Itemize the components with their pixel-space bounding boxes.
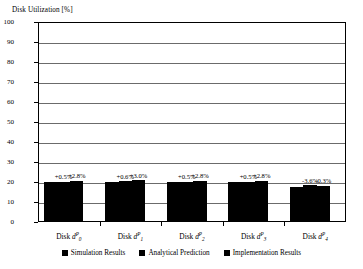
bar-group (290, 22, 330, 222)
bar (255, 181, 268, 222)
legend-label: Analytical Prediction (148, 249, 209, 257)
legend-item: Simulation Results (62, 249, 126, 257)
y-tick-label: 0 (0, 219, 14, 226)
bar-group (228, 22, 268, 222)
chart-legend: Simulation ResultsAnalytical PredictionI… (0, 249, 363, 257)
y-tick-label: 20 (0, 179, 14, 186)
bar-slot (193, 22, 206, 222)
y-tick-label: 10 (0, 199, 14, 206)
x-axis-labels: Disk dP0Disk dP1Disk dP2Disk dP3Disk dP4 (38, 227, 346, 247)
bar (132, 180, 145, 222)
bar-data-label: -0.3% (309, 177, 337, 184)
bar-slot (167, 22, 180, 222)
bar-group (44, 22, 84, 222)
y-tick-label: 60 (0, 99, 14, 106)
y-tick-label: 40 (0, 139, 14, 146)
bar-slot (303, 22, 316, 222)
bar (317, 186, 330, 222)
bar-data-label: +2.8% (186, 172, 214, 179)
bar-slot (105, 22, 118, 222)
bar-slot (317, 22, 330, 222)
x-tick-mark (284, 222, 285, 226)
bar-data-label: +2.8% (248, 172, 276, 179)
x-tick-mark (223, 222, 224, 226)
bar (290, 187, 303, 222)
y-tick-mark (34, 222, 38, 223)
bar-data-label: +2.8% (63, 172, 91, 179)
x-tick-label: Disk dP1 (100, 231, 162, 243)
bar-slot (242, 22, 255, 222)
bar-slot (44, 22, 57, 222)
bar-slot (119, 22, 132, 222)
bar-slot (228, 22, 241, 222)
bar-data-label: +3.0% (124, 172, 152, 179)
bar (228, 182, 241, 222)
bar (70, 181, 83, 222)
y-tick-label: 90 (0, 39, 14, 46)
bar (303, 185, 316, 222)
legend-swatch-icon (62, 250, 68, 256)
bar (119, 181, 132, 222)
bar (105, 182, 118, 222)
bar (167, 182, 180, 222)
bar (193, 181, 206, 222)
bar-slot (57, 22, 70, 222)
legend-swatch-icon (224, 250, 230, 256)
x-tick-label: Disk dP3 (223, 231, 285, 243)
y-tick-label: 70 (0, 79, 14, 86)
x-tick-mark (100, 222, 101, 226)
bar-slot (70, 22, 83, 222)
legend-label: Implementation Results (233, 249, 301, 257)
y-tick-label: 100 (0, 19, 14, 26)
x-tick-label: Disk dP4 (284, 231, 346, 243)
bars-layer: +0.5%+2.8%+0.6%+3.0%+0.5%+2.8%+0.5%+2.8%… (38, 22, 346, 222)
legend-item: Analytical Prediction (139, 249, 209, 257)
bar-slot (255, 22, 268, 222)
y-tick-label: 50 (0, 119, 14, 126)
disk-utilization-chart: Disk Utilization [%] 1009080706050403020… (0, 0, 363, 269)
legend-swatch-icon (139, 250, 145, 256)
bar (242, 182, 255, 222)
bar-group (167, 22, 207, 222)
y-tick-label: 80 (0, 59, 14, 66)
x-tick-label: Disk dP2 (161, 231, 223, 243)
x-tick-label: Disk dP0 (38, 231, 100, 243)
y-tick-label: 30 (0, 159, 14, 166)
bar (180, 182, 193, 222)
bar-group (105, 22, 145, 222)
legend-item: Implementation Results (224, 249, 301, 257)
bar-slot (290, 22, 303, 222)
bar (44, 182, 57, 222)
bar (57, 182, 70, 222)
bar-slot (132, 22, 145, 222)
x-tick-mark (161, 222, 162, 226)
bar-slot (180, 22, 193, 222)
legend-label: Simulation Results (71, 249, 126, 257)
